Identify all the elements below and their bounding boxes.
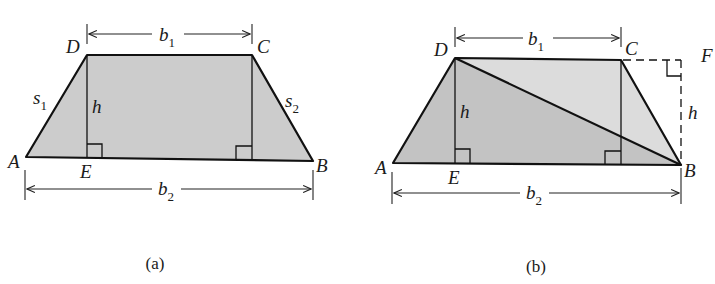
panel-b: b1 b2 D C F A B E h h (b) [373, 27, 713, 276]
vertex-label-e: E [447, 167, 460, 188]
vertex-label-d: D [65, 36, 80, 57]
vertex-label-e: E [79, 161, 92, 182]
vertex-label-a: A [6, 151, 20, 172]
caption-b: (b) [526, 257, 546, 276]
label-h-outer: h [688, 102, 698, 123]
vertex-label-d: D [433, 39, 448, 60]
trapezoid-figure: b1 b2 D C A B E s1 s2 h (a) [0, 0, 715, 284]
trapezoid-a-fill [26, 55, 313, 161]
label-b2: b2 [158, 178, 174, 204]
label-b1: b1 [159, 24, 175, 50]
label-s2: s2 [285, 90, 299, 116]
label-s1: s1 [33, 87, 47, 113]
vertex-label-b: B [316, 155, 328, 176]
vertex-label-c: C [257, 36, 270, 57]
vertex-label-b: B [684, 160, 696, 181]
label-h: h [92, 96, 102, 117]
vertex-label-f: F [700, 45, 713, 66]
label-h-inner: h [460, 101, 470, 122]
panel-a: b1 b2 D C A B E s1 s2 h (a) [6, 24, 328, 273]
vertex-label-c: C [625, 38, 638, 59]
label-b1: b1 [528, 28, 544, 54]
vertex-label-a: A [373, 157, 387, 178]
caption-a: (a) [146, 254, 165, 273]
right-angle-mark-f [667, 60, 681, 76]
label-b2: b2 [526, 182, 542, 208]
